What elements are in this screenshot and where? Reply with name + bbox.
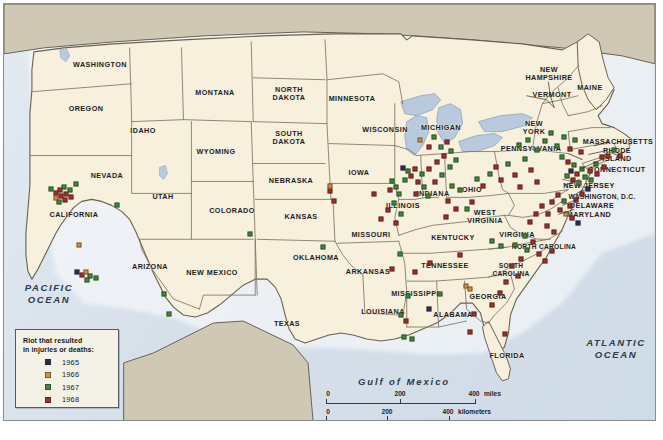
riot-marker-1966[interactable] xyxy=(564,212,569,217)
riot-marker-1968[interactable] xyxy=(510,264,515,269)
riot-marker-1967[interactable] xyxy=(397,192,402,197)
riot-marker-1967[interactable] xyxy=(565,174,570,179)
riot-marker-1968[interactable] xyxy=(63,198,68,203)
riot-marker-1966[interactable] xyxy=(418,138,423,143)
riot-marker-1968[interactable] xyxy=(579,150,584,155)
legend-item-1966[interactable]: 1966 xyxy=(23,370,111,379)
riot-marker-1968[interactable] xyxy=(600,155,605,160)
riot-marker-1968[interactable] xyxy=(534,212,539,217)
riot-marker-1967[interactable] xyxy=(410,337,415,342)
riot-marker-1967[interactable] xyxy=(513,243,518,248)
riot-marker-1968[interactable] xyxy=(416,180,421,185)
riot-marker-1968[interactable] xyxy=(481,184,486,189)
riot-marker-1967[interactable] xyxy=(555,144,560,149)
riot-marker-1968[interactable] xyxy=(602,165,607,170)
riot-marker-1967[interactable] xyxy=(394,185,399,190)
riot-marker-1968[interactable] xyxy=(458,253,463,258)
riot-marker-1967[interactable] xyxy=(438,292,443,297)
riot-marker-1968[interactable] xyxy=(513,173,518,178)
riot-marker-1967[interactable] xyxy=(583,175,588,180)
riot-marker-1967[interactable] xyxy=(562,199,567,204)
riot-marker-1967[interactable] xyxy=(422,185,427,190)
riot-marker-1967[interactable] xyxy=(406,294,411,299)
riot-marker-1967[interactable] xyxy=(573,138,578,143)
riot-marker-1967[interactable] xyxy=(439,145,444,150)
riot-marker-1968[interactable] xyxy=(535,180,540,185)
riot-marker-1967[interactable] xyxy=(402,335,407,340)
riot-marker-1966[interactable] xyxy=(328,184,333,189)
riot-marker-1968[interactable] xyxy=(433,180,438,185)
riot-marker-1968[interactable] xyxy=(428,261,433,266)
riot-marker-1965[interactable] xyxy=(576,221,581,226)
riot-marker-1968[interactable] xyxy=(413,270,418,275)
riot-marker-1967[interactable] xyxy=(475,177,480,182)
riot-marker-1968[interactable] xyxy=(472,312,477,317)
riot-marker-1967[interactable] xyxy=(74,182,79,187)
riot-marker-1967[interactable] xyxy=(526,138,531,143)
riot-marker-1968[interactable] xyxy=(580,192,585,197)
riot-marker-1967[interactable] xyxy=(488,172,493,177)
map-legend[interactable]: Riot that resulted in injuries or deaths… xyxy=(15,329,119,408)
riot-marker-1967[interactable] xyxy=(523,157,528,162)
riot-marker-1968[interactable] xyxy=(454,207,459,212)
riot-marker-1968[interactable] xyxy=(550,200,555,205)
riot-marker-1966[interactable] xyxy=(77,243,82,248)
riot-marker-1968[interactable] xyxy=(499,178,504,183)
riot-marker-1968[interactable] xyxy=(386,208,391,213)
riot-marker-1968[interactable] xyxy=(529,168,534,173)
riot-marker-1967[interactable] xyxy=(162,292,167,297)
riot-marker-1968[interactable] xyxy=(414,192,419,197)
riot-marker-1968[interactable] xyxy=(531,240,536,245)
riot-marker-1968[interactable] xyxy=(537,252,542,257)
riot-marker-1968[interactable] xyxy=(390,267,395,272)
riot-marker-1968[interactable] xyxy=(568,147,573,152)
riot-marker-1968[interactable] xyxy=(404,319,409,324)
riot-marker-1967[interactable] xyxy=(448,165,453,170)
riot-marker-1967[interactable] xyxy=(85,278,90,283)
legend-item-1967[interactable]: 1967 xyxy=(23,383,111,392)
riot-marker-1967[interactable] xyxy=(440,173,445,178)
riot-marker-1968[interactable] xyxy=(552,230,557,235)
riot-marker-1967[interactable] xyxy=(594,162,599,167)
riot-marker-1968[interactable] xyxy=(498,291,503,296)
riot-marker-1968[interactable] xyxy=(545,224,550,229)
riot-marker-1967[interactable] xyxy=(589,178,594,183)
riot-marker-1967[interactable] xyxy=(465,207,470,212)
riot-marker-1967[interactable] xyxy=(57,200,62,205)
riot-marker-1967[interactable] xyxy=(399,212,404,217)
riot-marker-1967[interactable] xyxy=(248,232,253,237)
riot-marker-1965[interactable] xyxy=(427,307,432,312)
riot-marker-1968[interactable] xyxy=(503,332,508,337)
riot-marker-1968[interactable] xyxy=(568,204,573,209)
riot-marker-1967[interactable] xyxy=(167,312,172,317)
riot-marker-1968[interactable] xyxy=(446,199,451,204)
riot-marker-1968[interactable] xyxy=(518,185,523,190)
riot-marker-1968[interactable] xyxy=(606,154,611,159)
riot-marker-1967[interactable] xyxy=(543,139,548,144)
riot-marker-1968[interactable] xyxy=(556,193,561,198)
riot-marker-1967[interactable] xyxy=(525,248,530,253)
riot-marker-1967[interactable] xyxy=(432,135,437,140)
riot-marker-1968[interactable] xyxy=(574,198,579,203)
riot-marker-1968[interactable] xyxy=(372,192,377,197)
riot-marker-1968[interactable] xyxy=(540,204,545,209)
riot-marker-1968[interactable] xyxy=(442,154,447,159)
riot-marker-1967[interactable] xyxy=(562,135,567,140)
riot-marker-1968[interactable] xyxy=(468,330,473,335)
riot-marker-1967[interactable] xyxy=(94,276,99,281)
riot-marker-1968[interactable] xyxy=(470,200,475,205)
legend-item-1968[interactable]: 1968 xyxy=(23,395,111,404)
riot-marker-1967[interactable] xyxy=(68,188,73,193)
riot-marker-1968[interactable] xyxy=(519,257,524,262)
riot-marker-1968[interactable] xyxy=(413,167,418,172)
riot-marker-1968[interactable] xyxy=(427,145,432,150)
riot-marker-1968[interactable] xyxy=(588,169,593,174)
riot-marker-1967[interactable] xyxy=(572,163,577,168)
riot-marker-1968[interactable] xyxy=(388,188,393,193)
riot-marker-1967[interactable] xyxy=(517,143,522,148)
riot-marker-1968[interactable] xyxy=(618,154,623,159)
riot-marker-1967[interactable] xyxy=(449,149,454,154)
riot-marker-1968[interactable] xyxy=(332,199,337,204)
riot-marker-1968[interactable] xyxy=(427,167,432,172)
riot-marker-1967[interactable] xyxy=(549,131,554,136)
